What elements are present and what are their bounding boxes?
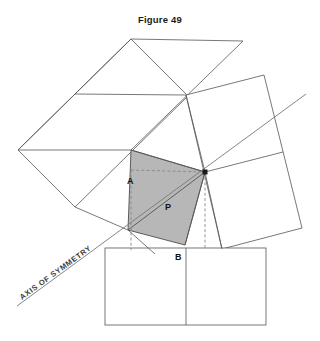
hub-point-marker bbox=[203, 170, 208, 175]
label-vertex-b: B bbox=[175, 252, 182, 262]
label-point-p: P bbox=[165, 202, 171, 212]
edge-leftvertex-to-upperleftsq bbox=[75, 207, 128, 230]
label-vertex-a: A bbox=[127, 176, 134, 186]
figure-drawing: A B P AXIS OF SYMMETRY bbox=[0, 0, 320, 341]
shaded-quadrilateral bbox=[128, 150, 205, 245]
label-axis-of-symmetry: AXIS OF SYMMETRY bbox=[18, 244, 93, 302]
figure-container: Figure 49 A bbox=[0, 0, 320, 341]
bottom-square bbox=[105, 248, 266, 325]
